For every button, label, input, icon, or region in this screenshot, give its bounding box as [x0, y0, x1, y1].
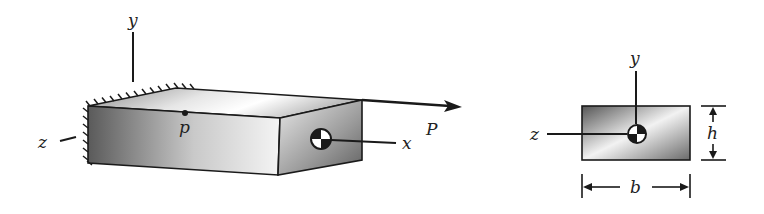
section-y-axis-label: y: [629, 48, 640, 68]
width-dimension: b: [582, 174, 690, 198]
z-axis-line: [60, 137, 76, 141]
beam-3d: y: [37, 10, 462, 175]
arrow-down-icon: [709, 151, 717, 159]
z-axis-label: z: [37, 132, 48, 152]
y-axis-label: y: [127, 10, 138, 30]
point-p-marker: [182, 110, 188, 116]
arrow-right-icon: [680, 183, 689, 191]
load-arrow-line: [362, 100, 450, 106]
section-centroid-icon: [628, 125, 646, 143]
cross-section: y z h b: [529, 48, 726, 198]
arrow-left-icon: [583, 183, 592, 191]
beam-diagram: y: [0, 0, 764, 214]
height-label: h: [707, 123, 718, 143]
arrow-up-icon: [709, 107, 717, 115]
section-z-axis-label: z: [529, 124, 540, 144]
centroid-icon: [311, 129, 331, 149]
height-dimension: h: [701, 106, 726, 160]
width-label: b: [630, 177, 641, 197]
diagram-canvas: y: [0, 0, 764, 214]
load-label: P: [425, 119, 438, 139]
point-p-label: p: [179, 117, 190, 137]
x-axis-label: x: [402, 133, 412, 153]
